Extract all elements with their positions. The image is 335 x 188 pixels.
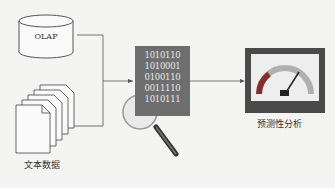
text-data-label: 文本数据 [24,158,60,171]
olap-source: OLAP [17,12,75,60]
predictive-analysis-label: 预测性分析 [257,117,302,130]
binary-line: 0011110 [135,83,190,94]
binary-line: 1010110 [135,50,190,61]
binary-line: 1010001 [135,61,190,72]
binary-line: 1010111 [135,94,190,105]
figure-caption-clipped [0,181,335,188]
document-stack-icon [14,84,76,156]
binary-data-block: 1010110 1010001 0100110 0011110 1010111 [135,46,190,116]
olap-label: OLAP [17,32,75,41]
gauge-meter-icon [245,48,325,113]
binary-line: 0100110 [135,72,190,83]
